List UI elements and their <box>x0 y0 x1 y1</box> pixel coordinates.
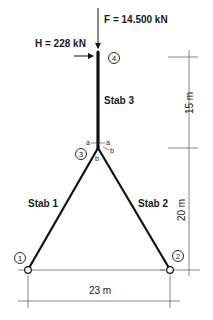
support-pin-2 <box>167 267 174 274</box>
section-a-left: a <box>86 139 90 146</box>
node-4: 4 <box>109 53 120 64</box>
dimension-horizontal: 23 m <box>18 270 180 308</box>
svg-text:2: 2 <box>176 252 181 261</box>
svg-text:4: 4 <box>112 54 117 63</box>
section-b-lower: b <box>95 155 99 162</box>
label-stab3: Stab 3 <box>104 95 134 106</box>
dimension-vertical: 15 m 20 m <box>160 50 200 276</box>
svg-text:1: 1 <box>18 254 23 263</box>
dimension-20m: 20 m <box>176 199 187 221</box>
label-stab1: Stab 1 <box>28 198 58 209</box>
svg-text:3: 3 <box>79 150 84 159</box>
node-1: 1 <box>15 253 26 264</box>
node-3: 3 <box>76 149 87 160</box>
label-stab2: Stab 2 <box>138 198 168 209</box>
section-a-right: a <box>106 139 110 146</box>
load-f-label: F = 14.500 kN <box>104 14 168 25</box>
load-h-label: H = 228 kN <box>35 38 86 49</box>
dimension-15m: 15 m <box>184 92 195 114</box>
node-2: 2 <box>173 251 184 262</box>
section-b-right: b <box>110 147 114 154</box>
dimension-23m: 23 m <box>89 285 111 296</box>
structural-diagram: 15 m 20 m 23 m F = 14.500 kN H = 228 kN … <box>0 0 213 320</box>
support-pin-1 <box>25 267 32 274</box>
